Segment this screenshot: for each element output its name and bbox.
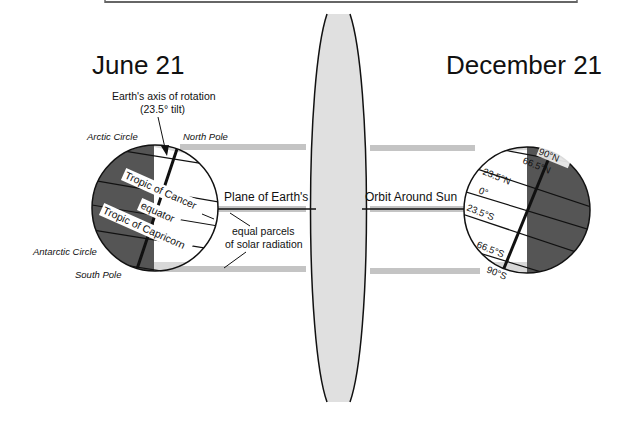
axis-pointer xyxy=(158,117,165,148)
title-december: December 21 xyxy=(446,50,602,80)
label-orbit-around-sun: Orbit Around Sun xyxy=(365,190,457,204)
title-june: June 21 xyxy=(92,50,185,80)
earth-seasons-diagram: June 21 December 21 xyxy=(0,0,630,428)
label-south-pole: South Pole xyxy=(75,269,121,280)
label-axis-line1: Earth's axis of rotation xyxy=(112,90,216,102)
label-axis-line2: (23.5° tilt) xyxy=(140,103,185,115)
label-arctic-circle: Arctic Circle xyxy=(86,131,138,142)
label-equal-parcels: equal parcels xyxy=(232,225,294,237)
label-solar-radiation: of solar radiation xyxy=(225,238,303,250)
label-north-pole: North Pole xyxy=(183,131,228,142)
orbit-plane-lens xyxy=(311,14,367,402)
label-plane-of-earths: Plane of Earth's xyxy=(224,190,308,204)
top-frame-edge xyxy=(105,0,577,3)
label-antarctic-circle: Antarctic Circle xyxy=(32,246,97,257)
parcels-pointer-bottom xyxy=(224,252,246,268)
